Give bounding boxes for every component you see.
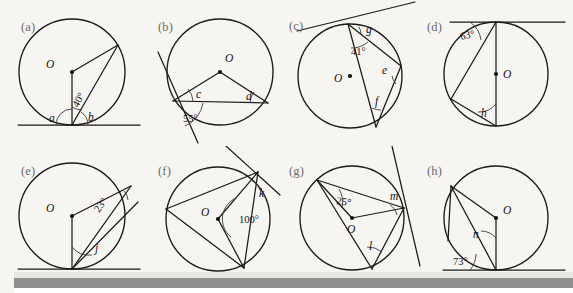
center-dot-e [70,214,74,218]
panel-label-e: (e) [21,164,35,179]
angle-label-e-j: j [93,242,98,255]
panel-g: 25° m l O (g) [280,146,425,293]
angle-label-g-25: 25° [336,195,352,208]
chord-e-b [72,202,138,269]
panel-label-d: (d) [427,20,442,35]
radius-chord-a [72,45,118,72]
chord-b [173,101,268,103]
page-edge-shadow [0,278,573,288]
panel-d: 63° h O (d) [415,0,573,146]
worksheet-page: 40° a b O (a) c d 55° O (b) [0,0,573,293]
center-dot-b [218,70,222,74]
panel-f: k 100° O (f) [140,146,285,293]
panel-b: c d 55° O (b) [140,0,285,146]
angle-label-b-c: c [196,88,201,100]
chord-d-bottom [451,99,496,126]
center-dot-h [494,216,498,220]
angle-label-c-41: 41° [351,46,366,57]
panel-e: 23° j O (e) [0,146,145,293]
center-dot-a [70,70,74,74]
panel-label-g: (g) [289,164,304,179]
tangent-line-f [226,146,280,195]
center-label-c: O [334,72,343,84]
angle-label-b-55: 55° [183,113,198,124]
panel-label-h: (h) [427,164,442,179]
chord-f-top [166,172,258,209]
angle-label-d-63: 63° [459,28,476,42]
panel-c: g 41° e f O (c) [280,0,425,146]
chord-g-left [317,180,372,269]
page-edge-base [0,288,573,293]
center-label-e: O [46,202,55,214]
angle-label-a-a: a [49,112,55,124]
angle-arc-h-n [481,231,496,238]
angle-label-c-g: g [366,23,372,36]
panel-label-a: (a) [21,20,35,35]
angle-arc-h-73 [470,254,476,270]
radius-b-right [220,72,268,103]
center-dot-d [494,72,498,76]
center-dot-c [348,74,352,78]
angle-label-a-b: b [88,111,94,123]
panel-label-c: (c) [289,19,303,34]
chord-a [72,45,118,125]
angle-label-h-73: 73° [453,256,468,267]
angle-label-b-d: d [246,90,252,102]
panel-label-b: (b) [158,20,173,35]
angle-label-f-k: k [259,187,265,199]
center-label-d: O [503,68,512,80]
center-label-f: O [201,206,210,218]
center-label-a: O [46,58,55,70]
panel-h: n 73° O (h) [415,146,573,293]
angle-label-h-n: n [473,228,479,240]
center-label-g: O [347,223,356,235]
angle-arc-c-f [372,108,381,110]
angle-label-d-h: h [481,107,487,119]
center-dot-f [216,217,220,221]
chord-c-long [348,24,376,127]
center-label-b: O [225,52,234,64]
tangent-line-c [297,2,415,31]
center-label-h: O [503,204,512,216]
center-dot-g [350,216,354,220]
angle-label-g-m: m [390,190,398,202]
angle-label-g-l: l [369,240,372,252]
radius-h-upper [451,186,496,218]
page-edge-left-corner [0,272,14,293]
angle-label-c-f: f [375,95,380,108]
panel-a: 40° a b O (a) [0,0,145,146]
angle-label-f-100: 100° [239,214,259,225]
radius-f-lower [218,219,244,268]
panel-label-f: (f) [158,164,171,179]
angle-label-c-e: e [382,64,387,76]
